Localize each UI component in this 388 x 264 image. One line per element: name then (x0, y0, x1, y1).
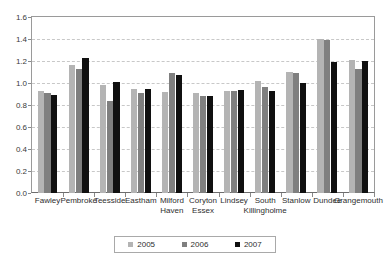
x-axis-label-line2: Essex (173, 206, 233, 216)
legend-swatch-icon (235, 242, 240, 247)
bar (362, 61, 368, 193)
y-axis-tick-label: 0.4 (16, 145, 27, 154)
bar (82, 58, 88, 193)
bar (176, 75, 182, 193)
bar (138, 93, 144, 193)
bar (76, 69, 82, 193)
bar (317, 39, 323, 193)
bar-group (312, 17, 343, 193)
bar-group (156, 17, 187, 193)
bar-group (63, 17, 94, 193)
bar (355, 69, 361, 193)
legend-label: 2007 (244, 240, 262, 249)
bar-group (250, 17, 281, 193)
y-axis-tick-label: 1.4 (16, 35, 27, 44)
y-axis-tick-label: 0.6 (16, 123, 27, 132)
y-axis-tick-label: 1.6 (16, 13, 27, 22)
bar-group (281, 17, 312, 193)
x-axis-label-line2: Killingholme (235, 206, 295, 216)
bar (51, 95, 57, 193)
bar (131, 89, 137, 194)
y-axis: 0.00.20.40.60.81.01.21.41.6 (0, 16, 31, 194)
bar (69, 65, 75, 193)
y-axis-tick-label: 0.8 (16, 101, 27, 110)
legend-item[interactable]: 2006 (182, 240, 209, 249)
bar-group (32, 17, 63, 193)
bar (331, 62, 337, 193)
bar (238, 90, 244, 193)
legend-label: 2006 (191, 240, 209, 249)
legend-swatch-icon (128, 242, 133, 247)
bar (44, 93, 50, 193)
bar (169, 73, 175, 193)
bar (262, 87, 268, 193)
x-axis-label: Grangemouth (328, 196, 388, 206)
bar-group (125, 17, 156, 193)
bar (107, 101, 113, 193)
legend-item[interactable]: 2007 (235, 240, 262, 249)
bar (293, 73, 299, 193)
bar (200, 96, 206, 193)
y-axis-tick-label: 1.0 (16, 79, 27, 88)
chart-legend: 200520062007 (114, 236, 276, 253)
y-axis-tick-label: 1.2 (16, 57, 27, 66)
bar (100, 85, 106, 193)
bar-group (219, 17, 250, 193)
y-axis-tick-mark (28, 193, 31, 194)
bar (224, 91, 230, 193)
bar-group (343, 17, 374, 193)
bar (145, 89, 151, 194)
bar-group (187, 17, 218, 193)
bar (113, 82, 119, 193)
legend-label: 2005 (137, 240, 155, 249)
x-axis-labels: FawleyPembrokeTeessideEasthamMilfordHave… (0, 196, 383, 226)
bars-layer (32, 17, 374, 193)
bar (207, 96, 213, 193)
bar (349, 60, 355, 193)
bar (269, 91, 275, 193)
legend-item[interactable]: 2005 (128, 240, 155, 249)
bar (231, 91, 237, 193)
bar (324, 40, 330, 193)
legend-swatch-icon (182, 242, 187, 247)
bar (193, 93, 199, 193)
x-axis-label-line1: Grangemouth (334, 196, 383, 205)
bar (162, 92, 168, 193)
bar (300, 83, 306, 193)
bar (38, 91, 44, 193)
y-axis-tick-label: 0.2 (16, 167, 27, 176)
bar (255, 81, 261, 193)
bar-group (94, 17, 125, 193)
bar (286, 72, 292, 193)
